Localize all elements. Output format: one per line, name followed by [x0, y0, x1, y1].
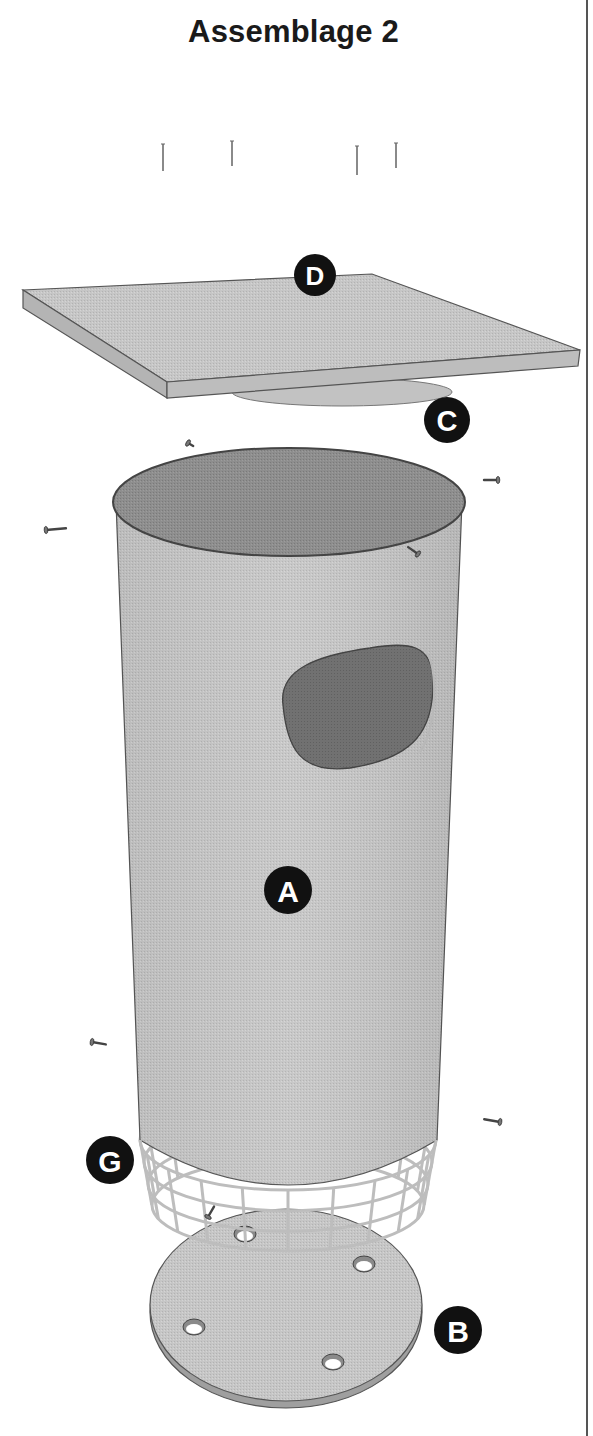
screw-icon: [484, 1116, 503, 1126]
roof-panel-d: [23, 274, 580, 398]
screw-icon: [484, 476, 500, 483]
assembly-diagram: DCAGB: [0, 0, 593, 1436]
nail-icon: [230, 141, 234, 166]
base-hole: [322, 1354, 344, 1370]
base-hole: [353, 1256, 375, 1272]
tube-body-a: [113, 448, 465, 1185]
part-label-a: A: [264, 866, 312, 914]
base-hole: [183, 1319, 205, 1335]
svg-text:A: A: [277, 875, 299, 908]
screw-icon: [185, 439, 195, 449]
screw-icon: [44, 525, 66, 534]
svg-text:C: C: [437, 405, 458, 437]
nails-group: [161, 141, 398, 175]
nail-icon: [355, 146, 359, 175]
nail-icon: [394, 143, 398, 168]
part-label-d: D: [294, 254, 336, 296]
svg-text:B: B: [447, 1315, 469, 1348]
nail-icon: [161, 144, 165, 171]
part-label-b: B: [434, 1306, 482, 1354]
part-label-g: G: [86, 1136, 134, 1184]
svg-text:D: D: [306, 261, 325, 291]
svg-text:G: G: [98, 1145, 121, 1178]
part-label-c: C: [424, 397, 470, 443]
screw-icon: [90, 1038, 107, 1048]
